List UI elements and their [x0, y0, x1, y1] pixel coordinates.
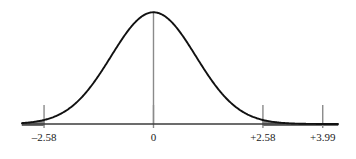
tick-label-right-critical: +2.58 [250, 131, 275, 143]
tick-label-center: 0 [151, 131, 157, 143]
tick-label-left-critical: –2.58 [32, 131, 57, 143]
tick-label-observed: +3.99 [310, 131, 335, 143]
bell-curve-path [22, 12, 338, 124]
normal-curve-figure: –2.58 0 +2.58 +3.99 [0, 0, 356, 159]
